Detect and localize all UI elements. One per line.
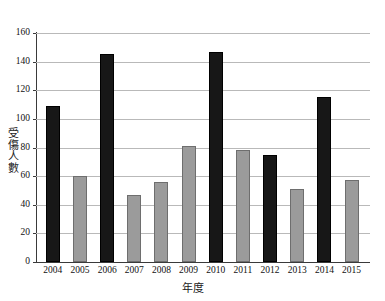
x-axis-tick-label: 2013	[282, 265, 312, 275]
x-axis-tick-label: 2009	[174, 265, 204, 275]
bar-2006	[100, 54, 114, 262]
bar-2010	[209, 52, 223, 262]
y-axis-tick-label: 20	[8, 228, 30, 238]
x-axis-tick-label: 2005	[65, 265, 95, 275]
y-axis-tickmark	[33, 90, 36, 91]
plot-area	[36, 33, 370, 262]
y-axis-tick-label: 160	[8, 28, 30, 38]
y-axis-tickmark	[33, 205, 36, 206]
x-axis-tick-label: 2012	[255, 265, 285, 275]
y-axis-tickmark	[33, 148, 36, 149]
y-axis-tick-label: 60	[8, 171, 30, 181]
y-axis-tickmark	[33, 62, 36, 63]
y-axis-tick-labels: 020406080100120140160	[0, 0, 30, 301]
bar-2014	[317, 97, 331, 262]
x-axis-tick-label: 2011	[228, 265, 258, 275]
gridline	[36, 90, 370, 91]
x-axis-tick-label: 2004	[38, 265, 68, 275]
y-axis-tickmark	[33, 176, 36, 177]
x-axis-tick-label: 2008	[146, 265, 176, 275]
y-axis-tickmark	[33, 262, 36, 263]
gridline	[36, 62, 370, 63]
y-axis-tickmark	[33, 119, 36, 120]
bar-2013	[290, 189, 304, 262]
y-axis-tick-label: 100	[8, 114, 30, 124]
x-axis-tick-label: 2015	[337, 265, 367, 275]
y-axis-tick-label: 120	[8, 85, 30, 95]
y-axis-tickmark	[33, 33, 36, 34]
bar-2009	[182, 146, 196, 262]
bar-2011	[236, 150, 250, 262]
x-axis-tick-label: 2010	[201, 265, 231, 275]
y-axis-tick-label: 80	[8, 143, 30, 153]
bar-chart: 受 傷 人 數 020406080100120140160 年度 2004200…	[0, 0, 385, 301]
x-axis-title: 年度	[0, 279, 385, 295]
bar-2015	[345, 180, 359, 262]
y-axis-tick-label: 0	[8, 257, 30, 267]
bar-2004	[46, 106, 60, 262]
bar-2008	[154, 182, 168, 262]
x-axis-tick-label: 2007	[119, 265, 149, 275]
x-axis-line	[36, 262, 370, 263]
bar-2005	[73, 176, 87, 262]
bar-2007	[127, 195, 141, 262]
x-axis-tick-label: 2014	[309, 265, 339, 275]
gridline	[36, 33, 370, 34]
y-axis-tickmark	[33, 233, 36, 234]
y-axis-tick-label: 40	[8, 200, 30, 210]
bar-2012	[263, 155, 277, 262]
y-axis-tick-label: 140	[8, 57, 30, 67]
x-axis-tick-label: 2006	[92, 265, 122, 275]
